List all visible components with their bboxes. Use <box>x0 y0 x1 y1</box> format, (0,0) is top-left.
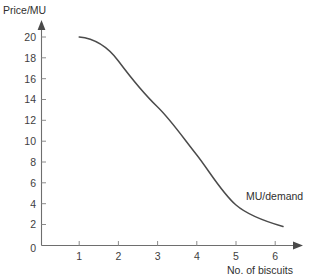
x-tick-marks <box>79 241 275 246</box>
arrow-up-icon <box>38 20 46 30</box>
y-tick-label-0: 0 <box>30 242 36 254</box>
chart-container: 20 18 16 14 12 10 8 6 4 2 0 1 2 3 4 5 6 … <box>0 0 317 278</box>
x-axis-title: No. of biscuits <box>227 264 293 276</box>
y-tick-label-8: 8 <box>30 156 36 168</box>
x-tick-label-2: 2 <box>115 250 121 262</box>
y-tick-marks <box>42 37 47 225</box>
y-tick-label-18: 18 <box>24 52 36 64</box>
series-label-mu-demand: MU/demand <box>246 190 303 202</box>
x-tick-label-1: 1 <box>76 250 82 262</box>
y-axis-title: Price/MU <box>3 4 46 16</box>
y-tick-label-2: 2 <box>30 218 36 230</box>
x-tick-label-4: 4 <box>194 250 200 262</box>
arrow-right-icon <box>293 242 303 250</box>
y-tick-label-16: 16 <box>24 73 36 85</box>
chart-canvas: 20 18 16 14 12 10 8 6 4 2 0 1 2 3 4 5 6 … <box>0 0 317 278</box>
y-tick-label-6: 6 <box>30 177 36 189</box>
x-tick-label-3: 3 <box>155 250 161 262</box>
y-tick-label-20: 20 <box>24 31 36 43</box>
y-tick-label-4: 4 <box>30 198 36 210</box>
x-tick-label-5: 5 <box>233 250 239 262</box>
y-tick-label-10: 10 <box>24 135 36 147</box>
y-tick-label-14: 14 <box>24 93 36 105</box>
y-tick-label-12: 12 <box>24 114 36 126</box>
x-tick-label-6: 6 <box>272 250 278 262</box>
